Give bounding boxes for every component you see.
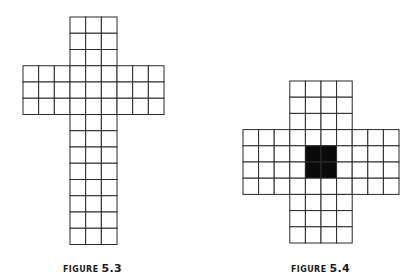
grid-cell bbox=[352, 178, 368, 194]
bottom-arm bbox=[290, 194, 352, 243]
grid-cell bbox=[383, 130, 399, 146]
filled-cell bbox=[321, 162, 337, 178]
grid-cell bbox=[243, 178, 259, 194]
grid-cell bbox=[259, 162, 275, 178]
grid-cell bbox=[305, 211, 321, 227]
grid-cell bbox=[290, 178, 306, 194]
caption-number: 5.4 bbox=[330, 262, 350, 275]
grid-cell bbox=[321, 113, 337, 129]
grid-cell bbox=[337, 194, 353, 210]
grid-cell bbox=[337, 146, 353, 162]
grid-cell bbox=[368, 162, 384, 178]
grid-cell bbox=[274, 178, 290, 194]
grid-cell bbox=[321, 81, 337, 97]
grid-cell bbox=[290, 194, 306, 210]
middle-band bbox=[243, 130, 399, 195]
grid-cell bbox=[352, 162, 368, 178]
grid-cell bbox=[368, 146, 384, 162]
grid-cell bbox=[337, 162, 353, 178]
grid-cell bbox=[337, 227, 353, 243]
grid-cell bbox=[305, 113, 321, 129]
caption-word: FIGURE bbox=[291, 265, 327, 274]
grid-cell bbox=[321, 227, 337, 243]
grid-cell bbox=[274, 146, 290, 162]
grid-cell bbox=[259, 146, 275, 162]
grid-cell bbox=[305, 178, 321, 194]
figure-caption: FIGURE5.4 bbox=[291, 257, 350, 276]
top-arm bbox=[290, 81, 352, 130]
grid-cell bbox=[337, 130, 353, 146]
grid-cell bbox=[305, 81, 321, 97]
filled-cell bbox=[305, 162, 321, 178]
grid-cell bbox=[321, 178, 337, 194]
grid-cell bbox=[259, 178, 275, 194]
grid-cell bbox=[290, 227, 306, 243]
grid-cell bbox=[243, 130, 259, 146]
grid-cell bbox=[243, 162, 259, 178]
grid-cell bbox=[305, 97, 321, 113]
grid-cell bbox=[321, 97, 337, 113]
grid-cell bbox=[290, 81, 306, 97]
grid-cell bbox=[368, 178, 384, 194]
grid-cell bbox=[290, 146, 306, 162]
figure-5-4: FIGURE5.4 bbox=[0, 0, 420, 279]
grid-cell bbox=[290, 162, 306, 178]
grid-cell bbox=[305, 227, 321, 243]
grid-cell bbox=[337, 97, 353, 113]
grid-cell bbox=[259, 130, 275, 146]
grid-cell bbox=[290, 97, 306, 113]
grid-cell bbox=[337, 81, 353, 97]
grid-cell bbox=[305, 194, 321, 210]
grid-cell bbox=[383, 178, 399, 194]
grid-cell bbox=[383, 146, 399, 162]
grid-cell bbox=[243, 146, 259, 162]
grid-cell bbox=[368, 130, 384, 146]
grid-cell bbox=[337, 211, 353, 227]
grid-cell bbox=[274, 162, 290, 178]
grid-cell bbox=[274, 130, 290, 146]
grid-cell bbox=[290, 130, 306, 146]
grid-cell bbox=[321, 130, 337, 146]
grid-cell bbox=[290, 211, 306, 227]
grid-cell bbox=[321, 211, 337, 227]
grid-cell bbox=[352, 130, 368, 146]
grid-cell bbox=[305, 130, 321, 146]
grid-cell bbox=[337, 178, 353, 194]
plus-grid bbox=[0, 0, 420, 279]
grid-cell bbox=[337, 113, 353, 129]
grid-cell bbox=[321, 194, 337, 210]
grid-cell bbox=[352, 146, 368, 162]
filled-cell bbox=[321, 146, 337, 162]
grid-cell bbox=[383, 162, 399, 178]
grid-cell bbox=[290, 113, 306, 129]
filled-cell bbox=[305, 146, 321, 162]
